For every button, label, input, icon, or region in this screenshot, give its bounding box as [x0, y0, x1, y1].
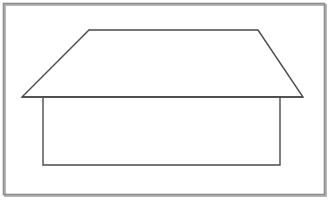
drawing-canvas [0, 0, 330, 203]
house-drawing [0, 0, 330, 203]
wall-shape [43, 97, 280, 165]
